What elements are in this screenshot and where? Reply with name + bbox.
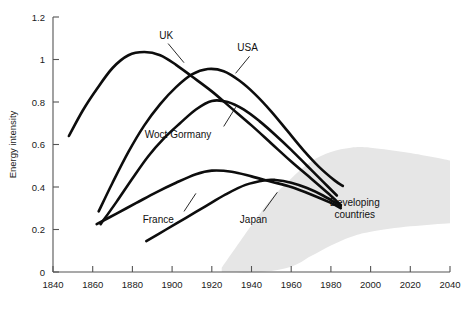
leader-line-usa: [236, 56, 250, 73]
series-label-japan: Japan: [240, 214, 267, 225]
x-tick-label: 1860: [82, 279, 103, 290]
y-tick-label: 0.8: [32, 97, 45, 108]
series-label-west-germany: Woct Gormany: [145, 129, 212, 140]
y-tick-label: 1: [40, 54, 45, 65]
x-tick-label: 1980: [320, 279, 341, 290]
chart-canvas: Developingcountries UKUSAWoct GormanyFra…: [0, 0, 469, 310]
x-tick-label: 1880: [122, 279, 143, 290]
y-axis-title: Energy intensity: [7, 110, 18, 178]
developing-countries-band-layer: Developingcountries: [222, 147, 450, 272]
energy-intensity-chart: Developingcountries UKUSAWoct GormanyFra…: [0, 0, 469, 310]
y-tick-label: 0.4: [32, 182, 45, 193]
series-label-france: France: [143, 214, 175, 225]
x-tick-label: 2020: [400, 279, 421, 290]
band-label-line-2: countries: [334, 209, 375, 220]
y-tick-label: 0.6: [32, 139, 45, 150]
y-tick-label: 0: [40, 267, 45, 278]
x-tick-label: 1940: [241, 279, 262, 290]
x-tick-label: 1900: [162, 279, 183, 290]
x-tick-label: 2000: [360, 279, 381, 290]
leader-line-france: [184, 193, 196, 211]
y-tick-label: 0.2: [32, 224, 45, 235]
x-tick-label: 1920: [201, 279, 222, 290]
series-label-usa: USA: [237, 42, 258, 53]
series-label-uk: UK: [159, 30, 173, 41]
y-tick-label: 1.2: [32, 12, 45, 23]
series-annotation-layer: UKUSAWoct GormanyFranceJapan: [143, 30, 278, 226]
x-tick-label: 1960: [281, 279, 302, 290]
x-tick-label: 1840: [42, 279, 63, 290]
x-tick-label: 2040: [439, 279, 460, 290]
leader-line-west-germany: [224, 107, 236, 126]
